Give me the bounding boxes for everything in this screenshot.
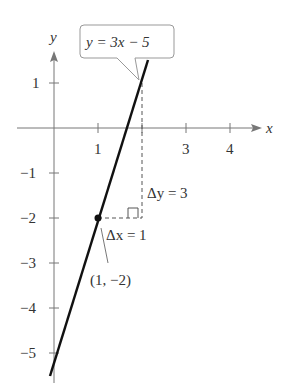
y-tick-label: −2 xyxy=(20,210,36,226)
y-tick-label: −1 xyxy=(20,165,36,181)
x-tick-label: 4 xyxy=(226,141,234,157)
x-tick-label: 3 xyxy=(182,141,190,157)
x-tick-label: 1 xyxy=(94,141,102,157)
point-label: (1, −2) xyxy=(90,272,131,289)
point-1-neg2 xyxy=(95,215,102,222)
right-angle-marker xyxy=(128,208,138,218)
chart: y x 1 3 4 1 −1 −2 −3 −4 −5 Δy = 3 Δx = 1… xyxy=(0,0,293,392)
axes xyxy=(17,58,256,383)
equation-label: y = 3x − 5 xyxy=(84,34,150,50)
x-axis-label: x xyxy=(265,120,273,136)
equation-callout: y = 3x − 5 xyxy=(80,25,174,80)
y-tick-label: −4 xyxy=(20,300,36,316)
y-tick-label: −5 xyxy=(20,345,36,361)
delta-y-label: Δy = 3 xyxy=(147,185,188,201)
delta-x-label: Δx = 1 xyxy=(106,227,147,243)
y-tick-label: 1 xyxy=(32,75,40,91)
y-axis-label: y xyxy=(48,29,57,45)
y-tick-label: −3 xyxy=(20,255,36,271)
